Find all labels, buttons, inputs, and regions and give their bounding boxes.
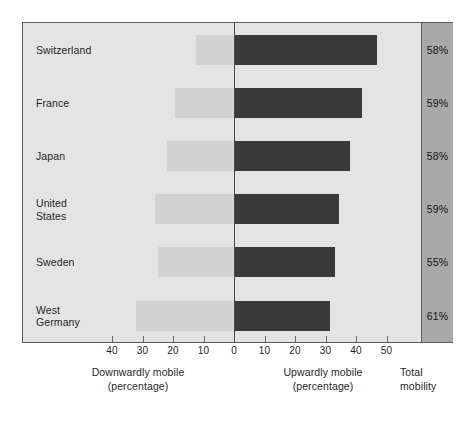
x-axis-tick-marks xyxy=(23,336,421,344)
bar-downwardly-mobile xyxy=(196,35,234,65)
total-mobility-value: 58% xyxy=(427,150,448,162)
country-label: United States xyxy=(36,197,67,222)
x-axis-tick-labels: 4030201001020304050 xyxy=(23,345,421,359)
axis-caption-upward: Upwardly mobile (percentage) xyxy=(268,366,378,393)
zero-axis-line xyxy=(234,23,235,342)
total-mobility-value: 58% xyxy=(427,44,448,56)
x-axis-tick-label: 50 xyxy=(381,345,392,356)
x-axis-tick-label: 0 xyxy=(231,345,237,356)
x-axis-tick xyxy=(356,336,357,343)
bars-region: SwitzerlandFranceJapanUnited StatesSwede… xyxy=(23,23,421,342)
x-axis-tick-label: 30 xyxy=(320,345,331,356)
total-mobility-cell: 59% xyxy=(422,76,453,129)
total-mobility-value: 59% xyxy=(427,203,448,215)
bar-row: Sweden xyxy=(23,236,421,289)
x-axis-tick-label: 40 xyxy=(106,345,117,356)
plot-frame: SwitzerlandFranceJapanUnited StatesSwede… xyxy=(22,22,453,343)
total-mobility-value: 59% xyxy=(427,97,448,109)
bar-upwardly-mobile xyxy=(234,88,362,118)
bar-downwardly-mobile xyxy=(136,301,234,331)
bar-upwardly-mobile xyxy=(234,194,339,224)
axis-caption-downward: Downwardly mobile (percentage) xyxy=(78,366,198,393)
country-label: Japan xyxy=(36,150,65,163)
x-axis-tick xyxy=(265,336,266,343)
bar-upwardly-mobile xyxy=(234,35,377,65)
total-mobility-cell: 55% xyxy=(422,236,453,289)
x-axis-tick xyxy=(143,336,144,343)
bar-row: West Germany xyxy=(23,289,421,342)
x-axis-tick xyxy=(295,336,296,343)
x-axis-tick-label: 40 xyxy=(350,345,361,356)
total-mobility-cell: 59% xyxy=(422,183,453,236)
bar-upwardly-mobile xyxy=(234,247,335,277)
x-axis-tick-label: 10 xyxy=(259,345,270,356)
bar-row: France xyxy=(23,76,421,129)
x-axis-tick xyxy=(173,336,174,343)
total-mobility-cell: 58% xyxy=(422,129,453,182)
total-mobility-cell: 61% xyxy=(422,289,453,342)
total-mobility-column: 58%59%58%59%55%61% xyxy=(421,23,453,342)
x-axis-tick xyxy=(326,336,327,343)
bar-downwardly-mobile xyxy=(158,247,234,277)
x-axis-tick-label: 10 xyxy=(198,345,209,356)
x-axis-tick xyxy=(112,336,113,343)
x-axis-tick-label: 20 xyxy=(167,345,178,356)
country-label: Switzerland xyxy=(36,43,91,56)
bar-downwardly-mobile xyxy=(167,141,234,171)
bar-downwardly-mobile xyxy=(175,88,234,118)
bar-row: Switzerland xyxy=(23,23,421,76)
x-axis-tick xyxy=(204,336,205,343)
mobility-chart-figure: SwitzerlandFranceJapanUnited StatesSwede… xyxy=(0,0,475,421)
total-mobility-value: 61% xyxy=(427,310,448,322)
country-label: Sweden xyxy=(36,256,75,269)
bar-upwardly-mobile xyxy=(234,301,330,331)
x-axis-tick-label: 20 xyxy=(289,345,300,356)
total-mobility-value: 55% xyxy=(427,256,448,268)
bar-downwardly-mobile xyxy=(155,194,234,224)
axis-caption-total-mobility: Total mobility xyxy=(400,366,462,393)
x-axis-tick-label: 30 xyxy=(137,345,148,356)
bar-upwardly-mobile xyxy=(234,141,350,171)
x-axis-tick xyxy=(387,336,388,343)
total-mobility-cell: 58% xyxy=(422,23,453,76)
bar-row: United States xyxy=(23,183,421,236)
country-label: West Germany xyxy=(36,303,80,328)
country-label: France xyxy=(36,97,69,110)
bar-row: Japan xyxy=(23,129,421,182)
